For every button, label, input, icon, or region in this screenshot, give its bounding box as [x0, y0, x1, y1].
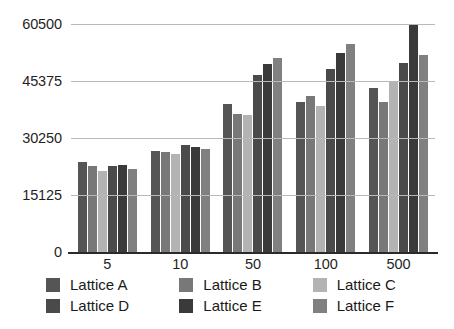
- gridline: [71, 195, 435, 196]
- bar[interactable]: [233, 114, 242, 252]
- x-tick-label: 100: [289, 254, 362, 276]
- legend-swatch-icon: [179, 278, 193, 292]
- legend-swatch-icon: [313, 278, 327, 292]
- legend-swatch-icon: [46, 299, 60, 313]
- bar[interactable]: [223, 104, 232, 252]
- legend-label: Lattice F: [337, 298, 395, 313]
- bar[interactable]: [88, 166, 97, 252]
- legend-item[interactable]: Lattice A: [46, 274, 179, 295]
- x-axis-tick-labels: 51050100500: [71, 254, 435, 276]
- legend-swatch-icon: [313, 299, 327, 313]
- y-tick-label: 15125: [22, 188, 62, 203]
- legend-item[interactable]: Lattice D: [46, 295, 179, 316]
- legend-label: Lattice A: [70, 277, 128, 292]
- bar[interactable]: [346, 44, 355, 252]
- bar-chart: 015125302504537560500 51050100500 Lattic…: [0, 0, 454, 329]
- plot-wrapper: 015125302504537560500: [0, 0, 454, 262]
- legend-item[interactable]: Lattice C: [313, 274, 446, 295]
- bar[interactable]: [379, 102, 388, 252]
- y-axis: 015125302504537560500: [0, 0, 68, 262]
- bar[interactable]: [181, 145, 190, 252]
- bar[interactable]: [419, 55, 428, 252]
- bar[interactable]: [389, 82, 398, 252]
- bar[interactable]: [201, 149, 210, 252]
- legend-label: Lattice D: [70, 298, 129, 313]
- bar[interactable]: [161, 152, 170, 252]
- legend-item[interactable]: Lattice F: [313, 295, 446, 316]
- bar[interactable]: [191, 147, 200, 252]
- legend-swatch-icon: [46, 278, 60, 292]
- bar[interactable]: [78, 162, 87, 252]
- y-tick-label: 30250: [22, 131, 62, 146]
- legend-label: Lattice E: [203, 298, 261, 313]
- y-tick-label: 60500: [22, 17, 62, 32]
- y-tick-label: 0: [54, 245, 62, 260]
- bar[interactable]: [369, 88, 378, 252]
- bar[interactable]: [108, 166, 117, 252]
- bar[interactable]: [128, 169, 137, 252]
- legend-swatch-icon: [179, 299, 193, 313]
- bar[interactable]: [243, 115, 252, 252]
- gridline: [71, 24, 435, 25]
- bar[interactable]: [306, 96, 315, 252]
- y-tick-label: 45375: [22, 74, 62, 89]
- bar[interactable]: [326, 69, 335, 252]
- x-tick-label: 5: [71, 254, 144, 276]
- bar[interactable]: [273, 58, 282, 252]
- legend-item[interactable]: Lattice E: [179, 295, 312, 316]
- bar[interactable]: [151, 151, 160, 252]
- bar[interactable]: [98, 171, 107, 252]
- chart-legend: Lattice ALattice BLattice CLattice DLatt…: [46, 274, 446, 316]
- bar[interactable]: [296, 102, 305, 252]
- gridline: [71, 138, 435, 139]
- bar[interactable]: [263, 64, 272, 252]
- x-tick-label: 500: [362, 254, 435, 276]
- plot-area: [71, 24, 435, 252]
- x-tick-label: 50: [217, 254, 290, 276]
- bar[interactable]: [399, 63, 408, 252]
- gridline: [71, 81, 435, 82]
- x-tick-label: 10: [144, 254, 217, 276]
- legend-item[interactable]: Lattice B: [179, 274, 312, 295]
- legend-label: Lattice B: [203, 277, 261, 292]
- legend-label: Lattice C: [337, 277, 396, 292]
- bar[interactable]: [171, 154, 180, 252]
- bar[interactable]: [118, 165, 127, 252]
- bar[interactable]: [316, 106, 325, 252]
- bar[interactable]: [336, 53, 345, 252]
- bar[interactable]: [253, 75, 262, 253]
